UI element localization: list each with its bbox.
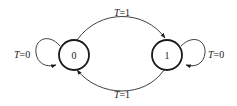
label-val: =0 [214,49,225,60]
self-loop-0-label: T=0 [14,49,30,60]
self-loop-0-arc [36,39,60,66]
state-1: 1 [152,40,182,70]
self-loop-1-label: T=0 [208,49,224,60]
transition-0-to-1-label: T=1 [114,7,130,18]
transition-1-to-0-arc [77,70,164,91]
label-val: =0 [20,49,31,60]
state-0: 0 [59,40,89,70]
label-val: =1 [119,89,130,100]
state-diagram: 0 1 T=1 T=1 T=0 T=0 [0,0,237,106]
self-loop-1-arc [181,40,205,66]
state-1-label: 1 [165,50,170,61]
label-val: =1 [119,7,130,18]
transition-1-to-0-label: T=1 [114,89,130,100]
state-0-label: 0 [72,50,77,61]
transition-0-to-1-arc [77,17,165,41]
